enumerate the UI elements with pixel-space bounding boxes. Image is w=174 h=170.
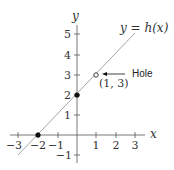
point-open-hole [94,73,98,77]
y-tick-label: 4 [64,49,71,62]
point-filled [35,132,40,137]
curve-label: y = h(x) [119,21,169,35]
arrow-head-icon [102,72,107,76]
hole-coordinate: (1, 3) [99,77,129,90]
x-tick-label: 1 [93,139,100,152]
x-axis-label: x [150,127,157,141]
x-tick-label: 2 [113,139,120,152]
hole-label: Hole [132,68,153,79]
y-tick-label: 1 [64,109,71,122]
x-tick-label: 3 [132,139,139,152]
y-tick-label: 5 [64,28,71,41]
x-tick-label: −3 [6,139,22,152]
graph: −3 −2 −1 1 2 3 −1 1 2 3 4 5 x y y = h(x)… [0,0,174,170]
y-axis-label: y [71,9,79,23]
y-tick-label: −1 [56,149,72,162]
y-tick-label: 3 [64,69,71,82]
x-tick-label: −2 [30,139,46,152]
y-tick-label: 2 [64,89,71,102]
point-filled [74,92,79,97]
